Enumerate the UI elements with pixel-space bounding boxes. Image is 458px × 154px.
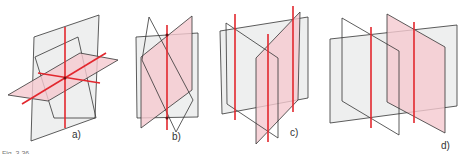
panel-b-label: b): [172, 131, 181, 142]
panel-d-label: d): [441, 140, 450, 151]
panel-b-point-bottom: [166, 117, 169, 120]
figure-caption: Fig. 3.36: [2, 150, 29, 154]
plane-intersections-figure: a) b) c) d) Fig. 3.36: [0, 0, 458, 154]
panel-c-label: c): [290, 127, 298, 138]
panel-a-label: a): [72, 129, 81, 140]
panel-b-point-top: [166, 34, 169, 37]
panel-d: d): [330, 14, 457, 151]
panel-b: b): [136, 16, 198, 142]
panel-c: c): [220, 6, 308, 144]
panel-a-common-point: [64, 77, 67, 80]
panel-a: a): [8, 15, 118, 141]
